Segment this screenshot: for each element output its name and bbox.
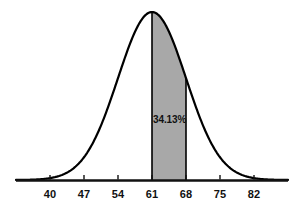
axis-tick-label: 82 bbox=[241, 188, 267, 201]
axis-tick-label: 40 bbox=[37, 188, 63, 201]
axis-tick-label: 61 bbox=[139, 188, 165, 201]
shaded-area-percent-label: 34.13% bbox=[153, 114, 186, 125]
axis-tick-label: 68 bbox=[173, 188, 199, 201]
axis-tick-marks bbox=[50, 175, 254, 180]
distribution-chart-svg bbox=[0, 0, 299, 211]
normal-distribution-figure: 40475461687582 34.13% bbox=[0, 0, 299, 211]
axis-tick-label: 47 bbox=[71, 188, 97, 201]
shaded-area-region bbox=[152, 12, 186, 180]
axis-tick-label: 54 bbox=[105, 188, 131, 201]
axis-tick-label: 75 bbox=[207, 188, 233, 201]
